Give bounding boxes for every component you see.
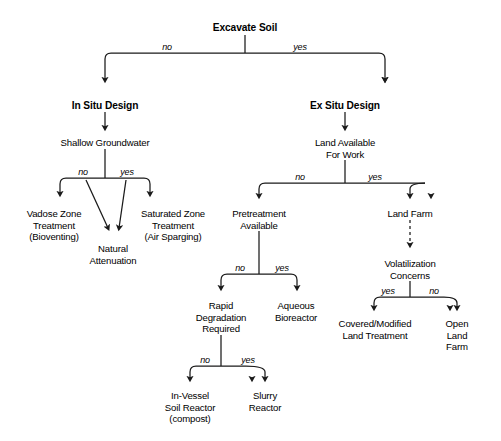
edge-label-volatilization-no: no xyxy=(427,286,441,296)
edge-groundwater-yes-to-natural xyxy=(119,180,126,228)
edge-pretreat-yes xyxy=(291,274,297,288)
node-vadose-zone-treatment: Vadose Zone Treatment (Bioventing) xyxy=(27,208,82,243)
edge-excavate-no-right-stub xyxy=(379,53,385,80)
edge-label-groundwater-no: no xyxy=(76,167,90,177)
edge-label-excavate-no: no xyxy=(160,42,174,52)
edge-label-rapid-yes: yes xyxy=(239,355,256,365)
edge-volatilization-no-stub xyxy=(444,297,450,308)
edge-landavail-no xyxy=(259,183,265,196)
edge-groundwater-yes-outer xyxy=(144,178,150,194)
edge-label-rapid-no: no xyxy=(198,355,212,365)
edge-volatilization-yes xyxy=(374,297,380,308)
edge-landavail-yes xyxy=(410,183,425,196)
node-in-situ-design: In Situ Design xyxy=(72,100,139,112)
node-slurry-reactor: Slurry Reactor xyxy=(249,390,282,413)
node-pretreatment-available: Pretreatment Available xyxy=(232,208,286,231)
node-in-vessel-soil-reactor: In-Vessel Soil Reactor (compost) xyxy=(165,390,215,425)
node-land-available-for-work: Land Available For Work xyxy=(315,137,375,160)
node-volatilization-concerns: Volatilization Concerns xyxy=(384,258,435,281)
edge-label-groundwater-yes: yes xyxy=(118,167,135,177)
edge-excavate-no xyxy=(105,53,111,80)
node-shallow-groundwater: Shallow Groundwater xyxy=(61,137,150,149)
decision-tree-diagram: Excavate Soil In Situ Design Ex Situ Des… xyxy=(0,0,501,441)
edge-rapid-no xyxy=(190,366,196,379)
edge-groundwater-no-to-natural xyxy=(86,180,108,228)
node-natural-attenuation: Natural Attenuation xyxy=(90,243,137,266)
edge-label-pretreatment-no: no xyxy=(233,263,247,273)
edge-label-volatilization-yes: yes xyxy=(379,286,396,296)
edge-pretreat-no xyxy=(221,274,227,288)
node-saturated-zone-treatment: Saturated Zone Treatment (Air Sparging) xyxy=(141,208,205,243)
node-land-farm: Land Farm xyxy=(387,208,432,220)
edge-label-pretreatment-yes: yes xyxy=(273,263,290,273)
node-covered-modified-land-treatment: Covered/Modified Land Treatment xyxy=(339,318,412,341)
edge-rapid-yes xyxy=(246,366,265,379)
edge-label-land-available-yes: yes xyxy=(366,172,383,182)
edge-landavail-yes-stub xyxy=(425,183,431,196)
edge-rapid-yes-stub xyxy=(246,366,252,379)
edge-label-land-available-no: no xyxy=(293,172,307,182)
edge-volatilization-no xyxy=(444,297,457,308)
node-open-land-farm: Open Land Farm xyxy=(435,318,479,353)
edge-excavate-yes xyxy=(379,53,385,80)
node-ex-situ-design: Ex Situ Design xyxy=(310,100,380,112)
edge-groundwater-no-outer xyxy=(60,178,66,194)
node-aqueous-bioreactor: Aqueous Bioreactor xyxy=(275,300,317,323)
node-excavate-soil: Excavate Soil xyxy=(213,22,277,34)
node-rapid-degradation: Rapid Degradation Required xyxy=(196,300,247,335)
edge-label-excavate-yes: yes xyxy=(291,42,308,52)
